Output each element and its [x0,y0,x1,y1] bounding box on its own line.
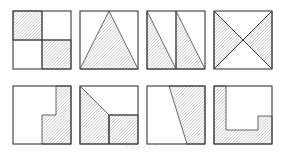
shaded-region-4-2 [243,11,272,69]
shaded-region-1-2 [42,40,71,69]
shaded-region-1-1 [13,11,42,40]
tile-4 [213,10,273,70]
tile-5 [12,85,72,145]
tile-drawing-1 [12,10,72,70]
shaded-region-7-1 [169,86,205,144]
figure-caption: Figure 1.3 [0,143,283,151]
tile-drawing-8 [213,85,273,145]
tile-1 [12,10,72,70]
tile-3 [146,10,206,70]
tile-7 [146,85,206,145]
tile-drawing-7 [146,85,206,145]
shaded-region-6-1 [80,86,109,144]
tile-drawing-3 [146,10,206,70]
shaded-region-2-1 [80,11,138,69]
tile-6 [79,85,139,145]
shaded-region-3-1 [147,11,176,69]
shaded-region-5-1 [42,86,71,144]
tile-drawing-5 [12,85,72,145]
tile-drawing-6 [79,85,139,145]
shaded-region-4-1 [214,11,243,69]
tile-drawing-4 [213,10,273,70]
shaded-region-6-2 [109,115,138,144]
shaded-region-3-2 [176,11,205,69]
tile-drawing-2 [79,10,139,70]
figure-container: Figure 1.3 [0,0,283,159]
shaded-region-8-1 [214,86,272,144]
tile-8 [213,85,273,145]
tile-2 [79,10,139,70]
